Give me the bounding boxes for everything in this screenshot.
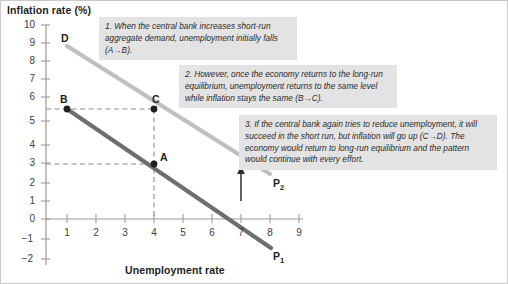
x-tick-label-9: 9 [291,227,307,238]
figure-container: Inflation rate (%) Unemployment rate [0,0,508,284]
x-tick-label-7: 7 [233,227,249,238]
y-tick-label-4: 4 [9,139,35,150]
point-label-a: A [160,151,168,163]
y-tick-label-neg1: −1 [7,233,33,244]
upward-shift-arrow [237,165,245,201]
annotation-note-2: 2. However, once the economy returns to … [179,65,397,108]
x-tick-label-4: 4 [146,227,162,238]
data-point-b [64,106,71,113]
y-tick-label-10: 10 [9,19,35,30]
curve-label-p1-letter: P [273,250,280,262]
y-tick-label-3: 3 [9,157,35,168]
y-tick-label-1: 1 [9,195,35,206]
data-point-a [151,161,158,168]
point-label-b: B [60,93,68,105]
y-tick-label-2: 2 [9,177,35,188]
y-tick-label-neg2: −2 [7,253,33,264]
curve-label-p1-sub: 1 [280,256,284,265]
x-tick-label-8: 8 [262,227,278,238]
point-label-d: D [61,32,69,44]
y-tick-label-8: 8 [9,55,35,66]
y-tick-label-0: 0 [9,213,35,224]
dashed-guide-lines [46,109,154,219]
x-tick-label-3: 3 [117,227,133,238]
annotation-note-3: 3. If the central bank again tries to re… [239,115,497,170]
x-tick-label-1: 1 [59,227,75,238]
x-tick-label-2: 2 [88,227,104,238]
curve-label-p2: P2 [273,177,284,192]
y-tick-label-7: 7 [9,73,35,84]
x-tick-label-5: 5 [175,227,191,238]
y-tick-label-5: 5 [9,115,35,126]
curve-label-p2-sub: 2 [280,183,284,192]
annotation-note-1: 1. When the central bank increases short… [99,17,297,60]
x-tick-label-6: 6 [204,227,220,238]
point-label-c: C [152,93,160,105]
data-point-c [151,106,158,113]
y-tick-label-9: 9 [9,37,35,48]
y-tick-label-6: 6 [9,91,35,102]
curve-label-p1: P1 [273,250,284,265]
curve-label-p2-letter: P [273,177,280,189]
